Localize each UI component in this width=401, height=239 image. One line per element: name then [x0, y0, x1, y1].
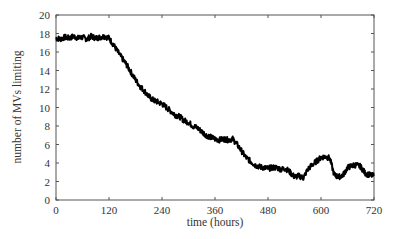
x-tick-label: 480	[260, 204, 277, 216]
y-tick-label: 8	[45, 120, 51, 132]
y-tick-label: 4	[45, 157, 51, 169]
x-axis-title: time (hours)	[187, 216, 244, 229]
line-chart: 02468101214161820 0120240360480600720 ti…	[0, 0, 401, 239]
y-tick-label: 16	[39, 46, 51, 58]
y-tick-label: 14	[39, 65, 51, 77]
y-tick-label: 0	[45, 194, 51, 206]
y-tick-label: 6	[45, 139, 51, 151]
y-tick-label: 12	[39, 83, 50, 95]
x-tick-label: 0	[53, 204, 59, 216]
x-tick-label: 240	[154, 204, 171, 216]
x-tick-label: 720	[366, 204, 383, 216]
y-tick-label: 20	[39, 9, 51, 21]
y-tick-label: 18	[39, 28, 51, 40]
plot-frame	[56, 15, 374, 200]
x-tick-label: 600	[313, 204, 330, 216]
x-axis: 0120240360480600720	[53, 15, 383, 216]
y-tick-label: 2	[45, 176, 51, 188]
data-series-line	[56, 34, 374, 180]
y-axis-title: number of MVs limiting	[11, 50, 24, 163]
x-tick-label: 120	[101, 204, 118, 216]
y-tick-label: 10	[39, 102, 51, 114]
plot-area	[56, 15, 374, 200]
x-tick-label: 360	[207, 204, 224, 216]
